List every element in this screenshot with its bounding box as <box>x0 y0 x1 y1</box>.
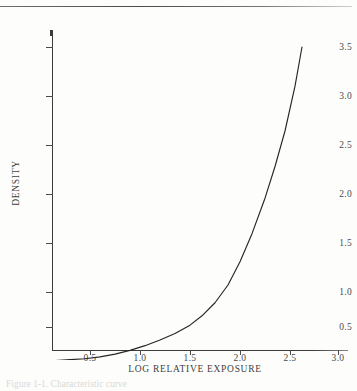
plot-area: 3.5 3.0 2.5 2.0 1.5 1.0 0.5 0.5 1.0 1.5 … <box>0 0 352 360</box>
figure-caption: Figure 1-1. Characteristic curve <box>6 379 350 389</box>
x-axis-title: LOG RELATIVE EXPOSURE <box>0 364 352 374</box>
characteristic-curve <box>0 0 352 360</box>
